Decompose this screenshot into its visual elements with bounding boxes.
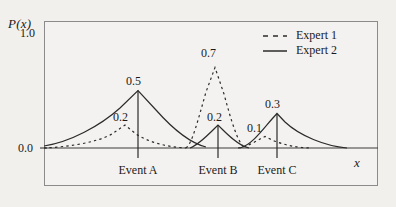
legend-item-expert1: Expert 1	[262, 28, 337, 43]
expert1-curve-b	[186, 68, 245, 149]
peak-label-expert2-b: 0.2	[207, 110, 222, 125]
expert1-curve-a	[44, 125, 186, 148]
expert1-curve-c	[238, 137, 312, 149]
legend-solid-line-icon	[262, 46, 288, 56]
chart-root: P(x) 1.0 0.0 x 0.5 0.2 0.7 0.2 0.3 0.1 E…	[0, 0, 396, 207]
legend-label-expert2: Expert 2	[296, 43, 337, 58]
event-label-c: Event C	[247, 163, 307, 178]
peak-label-expert1-a: 0.2	[113, 110, 128, 125]
peak-label-expert1-c: 0.1	[247, 121, 262, 136]
legend: Expert 1 Expert 2	[262, 28, 337, 58]
peak-label-expert1-b: 0.7	[201, 46, 216, 61]
event-label-a: Event A	[108, 163, 168, 178]
peak-label-expert2-a: 0.5	[126, 74, 141, 89]
event-label-b: Event B	[188, 163, 248, 178]
legend-item-expert2: Expert 2	[262, 43, 337, 58]
legend-label-expert1: Expert 1	[296, 28, 337, 43]
legend-dashed-line-icon	[262, 31, 288, 41]
peak-label-expert2-c: 0.3	[265, 97, 280, 112]
